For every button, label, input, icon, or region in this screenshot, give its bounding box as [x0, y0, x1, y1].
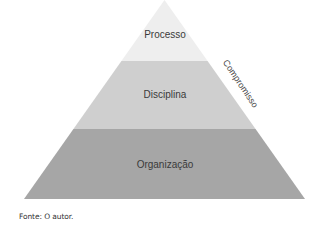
pyramid-diagram: Processo Disciplina Organização Compromi…: [0, 0, 325, 205]
layer-label-organizacao: Organização: [137, 159, 194, 170]
figure-caption: Fonte: O autor.: [19, 212, 73, 221]
layer-label-disciplina: Disciplina: [144, 89, 187, 100]
layer-label-processo: Processo: [144, 29, 186, 40]
